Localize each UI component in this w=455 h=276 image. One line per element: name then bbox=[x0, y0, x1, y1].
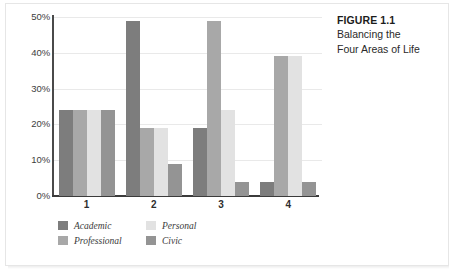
legend-label-academic: Academic bbox=[74, 221, 111, 231]
legend-column-right: Personal Civic bbox=[146, 218, 238, 248]
legend-item-civic: Civic bbox=[146, 233, 238, 248]
legend-label-civic: Civic bbox=[162, 236, 182, 246]
bar-academic-3 bbox=[193, 128, 207, 196]
bar-group-3 bbox=[188, 17, 255, 196]
y-axis-tick-0: 0% bbox=[16, 191, 50, 201]
x-axis-tick-4: 4 bbox=[255, 199, 322, 210]
y-axis-tick-50: 50% bbox=[16, 12, 50, 22]
legend-item-professional: Professional bbox=[58, 233, 146, 248]
legend-column-left: Academic Professional bbox=[58, 218, 146, 248]
x-axis-tick-2: 2 bbox=[120, 199, 187, 210]
bar-professional-3 bbox=[207, 21, 221, 196]
x-axis-tick-1: 1 bbox=[53, 199, 120, 210]
figure-caption: FIGURE 1.1 Balancing the Four Areas of L… bbox=[337, 13, 443, 56]
y-axis-tick-30: 30% bbox=[16, 84, 50, 94]
legend-swatch-personal bbox=[146, 221, 156, 230]
y-axis-tick-20: 20% bbox=[16, 119, 50, 129]
figure-container: 0%10%20%30%40%50% 1234 Academic Professi… bbox=[0, 0, 455, 276]
bar-civic-4 bbox=[302, 182, 316, 196]
y-axis-tick-10: 10% bbox=[16, 155, 50, 165]
bar-academic-4 bbox=[260, 182, 274, 196]
legend-swatch-academic bbox=[58, 221, 68, 230]
bar-professional-4 bbox=[274, 56, 288, 196]
bar-civic-1 bbox=[101, 110, 115, 196]
figure-caption-line-2: Four Areas of Life bbox=[337, 42, 443, 57]
bar-academic-2 bbox=[126, 21, 140, 196]
bar-group-2 bbox=[120, 17, 187, 196]
legend-label-personal: Personal bbox=[162, 221, 196, 231]
legend-item-personal: Personal bbox=[146, 218, 238, 233]
x-axis-tick-labels: 1234 bbox=[53, 199, 322, 215]
bar-professional-2 bbox=[140, 128, 154, 196]
bar-personal-4 bbox=[288, 56, 302, 196]
chart-bars bbox=[53, 17, 322, 196]
bar-civic-2 bbox=[168, 164, 182, 196]
legend-label-professional: Professional bbox=[74, 236, 122, 246]
bar-group-1 bbox=[53, 17, 120, 196]
bar-personal-1 bbox=[87, 110, 101, 196]
bar-personal-3 bbox=[221, 110, 235, 196]
figure-caption-title: FIGURE 1.1 bbox=[337, 13, 443, 27]
legend-item-academic: Academic bbox=[58, 218, 146, 233]
x-axis-tick-3: 3 bbox=[188, 199, 255, 210]
bar-academic-1 bbox=[59, 110, 73, 196]
figure-caption-line-1: Balancing the bbox=[337, 27, 443, 42]
y-axis-tick-labels: 0%10%20%30%40%50% bbox=[16, 12, 50, 196]
chart-legend: Academic Professional Personal Civic bbox=[58, 218, 298, 248]
y-axis-tick-40: 40% bbox=[16, 48, 50, 58]
bar-professional-1 bbox=[73, 110, 87, 196]
legend-swatch-professional bbox=[58, 236, 68, 245]
bar-civic-3 bbox=[235, 182, 249, 196]
bar-personal-2 bbox=[154, 128, 168, 196]
bar-group-4 bbox=[255, 17, 322, 196]
legend-swatch-civic bbox=[146, 236, 156, 245]
